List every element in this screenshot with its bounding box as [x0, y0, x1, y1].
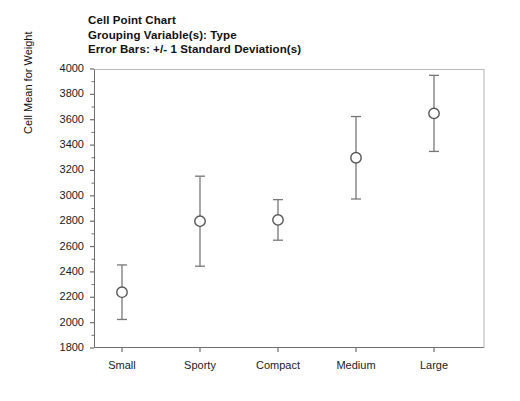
data-point-marker [429, 108, 439, 118]
data-point-group [429, 75, 439, 151]
y-axis-tick-label: 3400 [44, 138, 84, 150]
x-axis-tick-label: Small [108, 359, 136, 371]
y-axis-tick-label: 2200 [44, 290, 84, 302]
y-axis-tick-label: 2400 [44, 265, 84, 277]
x-axis-tick-label: Compact [256, 359, 300, 371]
y-axis-tick-label: 3200 [44, 163, 84, 175]
y-axis-tick-label: 3800 [44, 87, 84, 99]
y-axis-tick-label: 1800 [44, 341, 84, 353]
data-point-group [117, 265, 127, 320]
y-axis-tick-label: 2600 [44, 240, 84, 252]
data-point-group [195, 176, 205, 266]
data-point-group [273, 200, 283, 241]
x-axis-tick-label: Large [420, 359, 448, 371]
data-point-marker [195, 216, 205, 226]
y-axis-tick-label: 2000 [44, 316, 84, 328]
cell-point-chart: Cell Point Chart Grouping Variable(s): T… [0, 0, 520, 401]
x-axis-tick-label: Medium [336, 359, 375, 371]
data-point-marker [273, 215, 283, 225]
y-axis-tick-label: 2800 [44, 214, 84, 226]
y-axis-tick-label: 4000 [44, 62, 84, 74]
x-axis-tick-label: Sporty [184, 359, 216, 371]
y-axis-tick-label: 3600 [44, 113, 84, 125]
data-point-group [351, 117, 361, 199]
data-point-marker [351, 153, 361, 163]
y-axis-tick-label: 3000 [44, 189, 84, 201]
data-point-marker [117, 287, 127, 297]
